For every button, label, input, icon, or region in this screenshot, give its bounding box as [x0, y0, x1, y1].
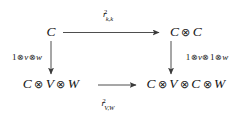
- tensor-symbol: ⊗: [28, 53, 36, 62]
- tensor-symbol: ⊗: [190, 53, 198, 62]
- arrow-label-right: 1⊗v⊗1⊗w: [186, 53, 228, 62]
- tensor-symbol: ⊗: [178, 79, 192, 90]
- commutative-diagram: C C⊗C C⊗V⊗W C⊗V⊗C⊗W r2k,k r2V,W 1⊗v⊗w 1⊗…: [0, 0, 244, 116]
- tensor-symbol: ⊗: [16, 53, 24, 62]
- node-top-right: C⊗C: [170, 25, 202, 39]
- tensor-symbol: ⊗: [32, 79, 46, 90]
- arrow-label-top-subscript: k,k: [106, 14, 113, 21]
- tensor-symbol: ⊗: [201, 79, 215, 90]
- tensor-symbol: ⊗: [214, 53, 222, 62]
- tensor-symbol: ⊗: [156, 79, 170, 90]
- tensor-symbol: ⊗: [54, 79, 68, 90]
- node-bottom-right: C⊗V⊗C⊗W: [146, 77, 225, 91]
- identity-symbol: 1: [210, 52, 215, 62]
- arrow-label-top-superscript: 2: [104, 7, 107, 14]
- arrow-label-left: 1⊗v⊗w: [12, 53, 42, 62]
- tensor-symbol: ⊗: [202, 53, 210, 62]
- node-top-left: C: [46, 25, 55, 39]
- arrow-label-bottom-subscript: V,W: [104, 103, 114, 110]
- identity-symbol: 1: [186, 52, 191, 62]
- arrow-label-bottom-superscript: 2: [103, 96, 106, 103]
- arrow-label-top: r2k,k: [103, 10, 117, 19]
- node-bottom-left: C⊗V⊗W: [23, 77, 79, 91]
- arrow-label-bottom: r2V,W: [102, 99, 119, 108]
- tensor-symbol: ⊗: [179, 27, 193, 38]
- identity-symbol: 1: [12, 52, 17, 62]
